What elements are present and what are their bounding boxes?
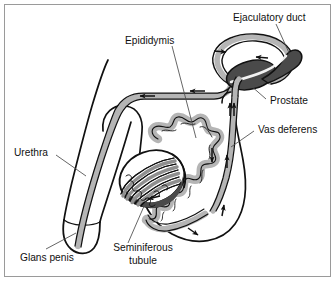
label-ejaculatory-duct: Ejaculatory duct <box>233 12 306 23</box>
label-glans-penis: Glans penis <box>20 252 74 263</box>
label-urethra: Urethra <box>14 147 48 158</box>
figure-root: Ejaculatory duct Epididymis Prostate Vas… <box>0 0 335 281</box>
label-epididymis: Epididymis <box>125 35 174 46</box>
male-reproductive-system-diagram: Ejaculatory duct Epididymis Prostate Vas… <box>0 0 335 281</box>
label-seminiferous-tubule-line1: Seminiferous <box>113 242 172 253</box>
flow-arrow-right-1 <box>214 51 226 52</box>
label-prostate: Prostate <box>270 95 308 106</box>
leader-urethra <box>56 155 86 176</box>
diagram-artwork: Ejaculatory duct Epididymis Prostate Vas… <box>14 12 317 266</box>
label-seminiferous-tubule-line2: tubule <box>129 255 157 266</box>
flow-arrow-left-3 <box>256 57 268 58</box>
label-vas-deferens: Vas deferens <box>258 124 317 135</box>
